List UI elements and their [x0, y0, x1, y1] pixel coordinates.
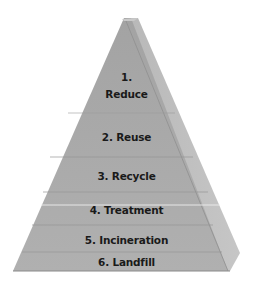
- level-2-label: 2. Reuse: [0, 131, 253, 143]
- level-1-label: Reduce: [0, 88, 253, 100]
- level-5-label: 5. Incineration: [0, 234, 253, 246]
- level-1-number: 1.: [0, 71, 253, 83]
- level-3-label: 3. Recycle: [0, 170, 253, 182]
- level-6-label: 6. Landfill: [0, 256, 253, 268]
- level-4-label: 4. Treatment: [0, 204, 253, 216]
